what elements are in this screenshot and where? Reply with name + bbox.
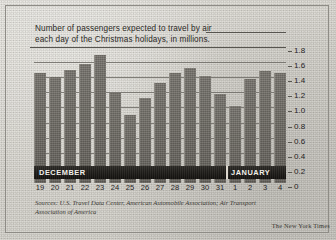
y-tick-mark-1.2 [288, 96, 292, 97]
bar-slot [139, 47, 151, 183]
x-tick-label-25: 25 [124, 182, 136, 194]
bar-slot [64, 47, 76, 183]
bar-slot [169, 47, 181, 183]
y-tick-label-0: 0 [294, 183, 298, 191]
chart-title-line-2: each day of the Christmas holidays, in m… [35, 35, 285, 46]
x-tick-label-28: 28 [169, 182, 181, 194]
x-tick-label-1: 1 [229, 182, 241, 194]
bar-slot [79, 47, 91, 183]
month-band-divider [226, 166, 228, 179]
bar-slot [154, 47, 166, 183]
bar-slot [184, 47, 196, 183]
y-tick-mark-1 [288, 111, 292, 112]
y-tick-label-1.6: 1.6 [294, 62, 305, 70]
plot-area [34, 47, 286, 183]
x-tick-label-19: 19 [34, 182, 46, 194]
x-tick-label-27: 27 [154, 182, 166, 194]
bar-slot [49, 47, 61, 183]
month-band: DECEMBER JANUARY [34, 166, 286, 179]
y-tick-mark-0.2 [288, 172, 292, 173]
bar-slot [34, 47, 46, 183]
bar-slot [274, 47, 286, 183]
x-axis-day-labels: 192021222324252627282930311234 [34, 182, 286, 194]
x-tick-label-31: 31 [214, 182, 226, 194]
y-tick-label-0.8: 0.8 [294, 123, 305, 131]
x-tick-label-30: 30 [199, 182, 211, 194]
x-tick-label-24: 24 [109, 182, 121, 194]
y-tick-label-0.2: 0.2 [294, 168, 305, 176]
chart-title: Number of passengers expected to travel … [35, 24, 285, 45]
sources-note: Sources: U.S. Travel Data Center, Americ… [35, 198, 285, 216]
y-tick-mark-0 [288, 187, 292, 188]
y-tick-mark-1.8 [288, 51, 292, 52]
bar-slot [214, 47, 226, 183]
month-label-january: JANUARY [231, 168, 270, 177]
x-tick-label-22: 22 [79, 182, 91, 194]
y-tick-label-0.4: 0.4 [294, 153, 305, 161]
x-tick-label-23: 23 [94, 182, 106, 194]
bar-slot [94, 47, 106, 183]
x-tick-label-26: 26 [139, 182, 151, 194]
y-tick-mark-0.4 [288, 157, 292, 158]
x-tick-label-4: 4 [274, 182, 286, 194]
chart-title-line-1: Number of passengers expected to travel … [35, 24, 285, 35]
sources-line-2: Association of America [35, 207, 285, 216]
y-tick-label-1.4: 1.4 [294, 77, 305, 85]
x-tick-label-2: 2 [244, 182, 256, 194]
y-tick-label-1.2: 1.2 [294, 92, 305, 100]
bar-slot [244, 47, 256, 183]
bar-slot [259, 47, 271, 183]
y-axis: 00.20.40.60.81.01.21.41.61.8 [288, 40, 332, 192]
x-tick-label-20: 20 [49, 182, 61, 194]
y-tick-mark-1.6 [288, 66, 292, 67]
bar-series [34, 47, 286, 183]
x-tick-label-3: 3 [259, 182, 271, 194]
bar-slot [229, 47, 241, 183]
bar-slot [199, 47, 211, 183]
x-tick-label-29: 29 [184, 182, 196, 194]
publication-credit: The New York Times [272, 222, 330, 229]
leader-line-16 [30, 47, 286, 48]
y-tick-label-1.8: 1.8 [294, 47, 305, 55]
bar-slot [124, 47, 136, 183]
bar-slot [109, 47, 121, 183]
x-tick-label-21: 21 [64, 182, 76, 194]
chart-figure-frame: Number of passengers expected to travel … [5, 5, 329, 233]
bar-23 [94, 55, 106, 183]
leader-line-18 [206, 32, 286, 33]
y-tick-mark-0.8 [288, 127, 292, 128]
y-tick-mark-0.6 [288, 142, 292, 143]
sources-line-1: Sources: U.S. Travel Data Center, Americ… [35, 198, 285, 207]
y-tick-label-1: 1.0 [294, 107, 305, 115]
y-tick-mark-1.4 [288, 81, 292, 82]
y-tick-label-0.6: 0.6 [294, 138, 305, 146]
month-label-december: DECEMBER [39, 168, 86, 177]
